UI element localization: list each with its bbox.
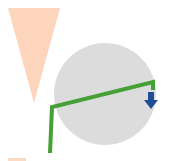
peach-bottom-strip <box>8 158 26 161</box>
peach-triangle-shape <box>8 8 60 103</box>
diagram-canvas <box>0 0 170 161</box>
